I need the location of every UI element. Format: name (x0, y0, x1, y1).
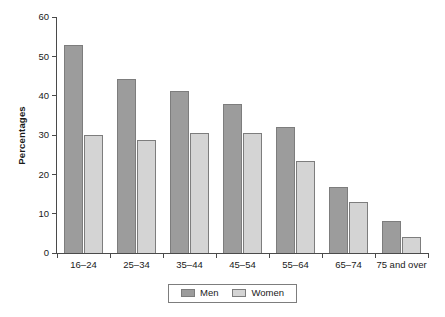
bar-group (117, 17, 157, 253)
bar-women[interactable] (243, 133, 262, 253)
x-tick-mark (269, 253, 270, 258)
bar-group (223, 17, 263, 253)
y-tick-label: 30 (38, 130, 49, 140)
y-tick-mark (52, 17, 57, 18)
bar-men[interactable] (382, 221, 401, 253)
x-tick-mark (216, 253, 217, 258)
x-tick-label: 55–64 (269, 259, 322, 270)
legend-swatch-men-icon (181, 289, 195, 297)
y-tick-mark (52, 174, 57, 175)
y-tick-label: 50 (38, 52, 49, 62)
bar-men[interactable] (329, 187, 348, 253)
y-tick-label: 20 (38, 170, 49, 180)
legend-entry-women[interactable]: Women (232, 288, 284, 298)
bar-chart-figure: Percentages 0102030405060 16–2425–3435–4… (0, 0, 445, 317)
y-axis-label: Percentages (14, 17, 28, 253)
x-tick-mark (375, 253, 376, 258)
y-axis-line (56, 17, 57, 254)
y-tick-mark (52, 95, 57, 96)
x-tick-label: 25–34 (110, 259, 163, 270)
x-tick-label: 45–54 (216, 259, 269, 270)
plot-area: 0102030405060 (57, 17, 428, 253)
x-tick-label: 75 and over (368, 259, 436, 270)
bar-women[interactable] (84, 135, 103, 253)
bar-men[interactable] (223, 104, 242, 253)
x-tick-mark (428, 253, 429, 258)
y-tick-label: 60 (38, 12, 49, 22)
y-tick-label: 0 (44, 248, 49, 258)
bar-women[interactable] (402, 237, 421, 253)
y-tick-mark (52, 135, 57, 136)
bar-men[interactable] (170, 91, 189, 253)
bar-group (329, 17, 369, 253)
legend-label-women: Women (251, 288, 284, 298)
legend-entry-men[interactable]: Men (181, 288, 218, 298)
x-tick-label: 16–24 (57, 259, 110, 270)
x-tick-label: 35–44 (163, 259, 216, 270)
bar-group (170, 17, 210, 253)
y-tick-mark (52, 56, 57, 57)
bar-women[interactable] (349, 202, 368, 253)
x-tick-mark (57, 253, 58, 258)
y-tick-label: 10 (38, 209, 49, 219)
bar-men[interactable] (276, 127, 295, 253)
legend-swatch-women-icon (232, 289, 246, 297)
bar-women[interactable] (137, 140, 156, 253)
legend-label-men: Men (200, 288, 218, 298)
bar-women[interactable] (296, 161, 315, 253)
x-axis-line (56, 253, 428, 254)
x-tick-mark (322, 253, 323, 258)
bar-group (276, 17, 316, 253)
bar-group (64, 17, 104, 253)
y-tick-mark (52, 213, 57, 214)
bar-group (382, 17, 422, 253)
y-axis-label-text: Percentages (16, 106, 27, 165)
bar-women[interactable] (190, 133, 209, 253)
y-tick-label: 40 (38, 91, 49, 101)
bar-men[interactable] (64, 45, 83, 253)
x-tick-mark (163, 253, 164, 258)
bar-men[interactable] (117, 79, 136, 253)
chart-legend: Men Women (168, 284, 297, 303)
x-tick-mark (110, 253, 111, 258)
